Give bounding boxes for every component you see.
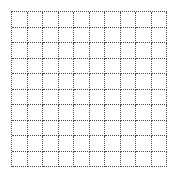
grid-cell (12, 152, 28, 168)
grid-cell (105, 121, 121, 137)
grid-cell (136, 74, 152, 90)
grid-cell (59, 121, 75, 137)
grid-cell (28, 105, 44, 121)
grid-cell (43, 59, 59, 75)
grid-cell (90, 28, 106, 44)
grid-cell (28, 152, 44, 168)
grid-cell (43, 90, 59, 106)
grid-cell (90, 136, 106, 152)
grid-cell (12, 12, 28, 28)
grid-cell (152, 121, 168, 137)
grid-cell (121, 136, 137, 152)
grid-cell (105, 43, 121, 59)
grid-cell (28, 90, 44, 106)
grid-cell (121, 121, 137, 137)
grid-cell (121, 59, 137, 75)
grid-cell (59, 74, 75, 90)
grid-cell (59, 12, 75, 28)
grid-cell (136, 12, 152, 28)
grid-cell (43, 74, 59, 90)
grid-cell (59, 59, 75, 75)
grid-cell (152, 28, 168, 44)
grid-cell (105, 136, 121, 152)
grid-cell (121, 105, 137, 121)
grid-cell (59, 28, 75, 44)
grid-cell (12, 121, 28, 137)
grid-cell (105, 28, 121, 44)
grid-cell (12, 90, 28, 106)
grid-cell (121, 12, 137, 28)
grid-cell (74, 59, 90, 75)
grid-cell (43, 43, 59, 59)
grid-cell (59, 105, 75, 121)
grid-cell (12, 28, 28, 44)
grid-cell (74, 152, 90, 168)
grid-cell (12, 105, 28, 121)
grid-cell (74, 74, 90, 90)
grid-cell (152, 90, 168, 106)
grid-cell (90, 152, 106, 168)
grid-cell (28, 43, 44, 59)
grid-cell (43, 152, 59, 168)
grid-cell (90, 12, 106, 28)
grid-cell (74, 28, 90, 44)
grid-cell (59, 43, 75, 59)
grid-cell (90, 59, 106, 75)
grid-cell (121, 28, 137, 44)
grid-cell (136, 105, 152, 121)
grid-cell (136, 28, 152, 44)
grid-cell (105, 152, 121, 168)
grid-cell (43, 28, 59, 44)
grid-cell (74, 43, 90, 59)
grid-cell (28, 74, 44, 90)
grid-cell (105, 105, 121, 121)
grid-cell (152, 59, 168, 75)
grid-cell (74, 136, 90, 152)
dotted-grid (11, 11, 167, 167)
grid-cell (152, 74, 168, 90)
grid-cell (121, 74, 137, 90)
grid-cell (28, 136, 44, 152)
grid-cell (12, 43, 28, 59)
grid-cell (136, 121, 152, 137)
grid-cell (43, 121, 59, 137)
grid-cell (136, 136, 152, 152)
grid-cell (90, 105, 106, 121)
grid-cell (105, 12, 121, 28)
grid-cell (136, 90, 152, 106)
grid-cell (12, 136, 28, 152)
grid-cell (152, 105, 168, 121)
grid-cell (43, 136, 59, 152)
grid-cell (105, 59, 121, 75)
grid-cell (105, 74, 121, 90)
grid-cell (136, 152, 152, 168)
grid-cell (136, 59, 152, 75)
grid-cell (59, 136, 75, 152)
grid-cell (90, 74, 106, 90)
grid-cell (12, 59, 28, 75)
grid-cell (28, 12, 44, 28)
grid-cell (121, 43, 137, 59)
grid-cell (59, 152, 75, 168)
grid-cell (152, 136, 168, 152)
grid-cell (74, 121, 90, 137)
grid-cell (12, 74, 28, 90)
grid-cell (90, 43, 106, 59)
grid-cell (90, 90, 106, 106)
grid-cell (28, 28, 44, 44)
grid-cell (43, 12, 59, 28)
grid-cell (74, 90, 90, 106)
grid-cell (90, 121, 106, 137)
grid-cell (152, 12, 168, 28)
grid-cell (136, 43, 152, 59)
grid-cell (74, 12, 90, 28)
grid-cell (152, 43, 168, 59)
grid-cell (74, 105, 90, 121)
grid-cell (121, 90, 137, 106)
grid-cell (105, 90, 121, 106)
grid-cell (43, 105, 59, 121)
grid-cell (152, 152, 168, 168)
grid-cell (28, 59, 44, 75)
grid-cell (59, 90, 75, 106)
grid-cell (121, 152, 137, 168)
